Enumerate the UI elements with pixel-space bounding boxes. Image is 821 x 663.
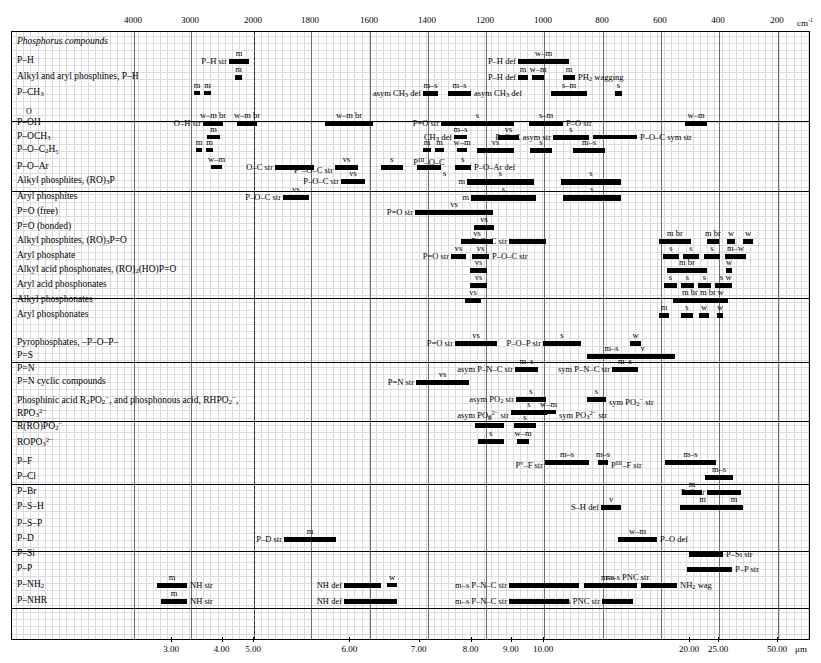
- band-intensity-label: m–s: [582, 138, 596, 147]
- band-intensity-label: m–s: [560, 450, 574, 459]
- band-marker: [471, 195, 536, 201]
- band-assignment-label: asym P–N–C str: [457, 365, 513, 374]
- row-label-6: P–O–C2H₅: [17, 144, 59, 156]
- band-intensity-label: m: [235, 65, 242, 74]
- band-assignment-label: asym CH3 def: [373, 89, 421, 99]
- band-assignment-label: NH str: [190, 581, 213, 590]
- top-tick-1800: 1800: [301, 16, 319, 25]
- band-intensity-label: s: [710, 244, 713, 253]
- band-marker: [725, 283, 732, 288]
- band-intensity-label: s: [589, 169, 592, 178]
- bottom-axis-wavelength: 3.004.005.006.007.008.009.0010.0020.0025…: [0, 645, 821, 659]
- gridline-horizontal: [12, 108, 809, 109]
- band-assignment-label: P=O str: [423, 252, 449, 261]
- band-marker: [717, 313, 723, 318]
- band-marker: [161, 599, 187, 604]
- band-intensity-label: m: [436, 138, 443, 147]
- top-axis-unit: cm-1: [797, 16, 813, 28]
- band-marker: [685, 121, 707, 126]
- band-assignment-label: m–s P–N–C str: [455, 581, 507, 590]
- band-assignment-label: sym P–N–C str: [558, 365, 610, 374]
- band-marker: [457, 148, 467, 152]
- gridline-horizontal: [12, 418, 809, 419]
- row-label-18: Pyrophosphates, –P–O–P–: [17, 337, 118, 347]
- band-intensity-label: m: [661, 303, 668, 312]
- band-assignment-label: P–O–C str: [303, 177, 339, 186]
- row-label-3: P–CH3: [17, 87, 44, 99]
- band-intensity-label: m: [194, 81, 201, 90]
- band-assignment-label: P–Si str: [726, 550, 753, 559]
- gridline-vertical: [719, 32, 720, 639]
- top-tick-400: 400: [711, 16, 725, 25]
- band-marker: [455, 165, 471, 170]
- band-intensity-label: s: [390, 155, 393, 164]
- band-intensity-label: vs: [450, 200, 458, 209]
- row-label-15: Aryl acid phosphonates: [17, 279, 107, 289]
- band-intensity-label: s: [569, 125, 572, 134]
- gridline-horizontal: [12, 619, 809, 620]
- band-intensity-label: w–m br: [336, 111, 362, 120]
- row-label-28: P–Br: [17, 486, 37, 496]
- top-tick-600: 600: [653, 16, 667, 25]
- bottom-tick-50.00: 50.00: [767, 645, 787, 654]
- band-intensity-label: m–s PNC str: [606, 573, 649, 582]
- gridline-horizontal: [12, 598, 809, 599]
- top-tick-1600: 1600: [360, 16, 378, 25]
- band-marker: [587, 397, 606, 402]
- band-marker: [551, 91, 587, 96]
- band-marker: [618, 537, 657, 542]
- row-label-0: Phosphorus compounds: [17, 36, 108, 46]
- band-intensity-label: v: [640, 344, 644, 353]
- gridline-horizontal: [12, 338, 809, 339]
- band-intensity-label: w: [717, 303, 723, 312]
- gridline-horizontal: [12, 353, 809, 354]
- band-marker: [517, 439, 529, 444]
- band-assignment-label: P=O str: [427, 339, 453, 348]
- row-label-12: Alkyl phosphites, (RO)3P=O: [17, 235, 127, 247]
- band-assignment-label: sym PO2− str: [609, 395, 654, 408]
- gridline-horizontal: [12, 360, 809, 361]
- band-intensity-label: w–m: [515, 429, 532, 438]
- band-intensity-label: m br: [700, 288, 716, 297]
- band-marker: [659, 239, 691, 244]
- gridline-horizontal: [12, 43, 809, 44]
- band-intensity-label: m–s: [596, 450, 610, 459]
- band-assignment-label: P–H def: [488, 73, 516, 82]
- band-marker: [284, 537, 336, 542]
- band-intensity-label: m–s: [683, 450, 697, 459]
- band-intensity-label: w–m: [535, 49, 552, 58]
- band-marker: [602, 599, 633, 604]
- band-intensity-label: m–s: [452, 81, 466, 90]
- band-assignment-label: P–O def: [660, 535, 688, 544]
- row-label-29: P–S–H: [17, 501, 44, 511]
- band-marker: [423, 148, 431, 152]
- gridline-horizontal: [12, 626, 809, 627]
- band-intensity-label: s–m: [562, 81, 576, 90]
- row-label-13: Aryl phosphate: [17, 250, 75, 260]
- band-intensity-label: w–m: [688, 111, 705, 120]
- band-intensity-label: s: [476, 111, 479, 120]
- top-axis-wavenumber: 4000300020001800160014001200100080060040…: [0, 16, 821, 30]
- band-intensity-label: w: [701, 303, 707, 312]
- band-assignment-label: NH2 wag: [680, 581, 712, 591]
- band-marker: [725, 505, 743, 510]
- band-intensity-label: m: [210, 125, 217, 134]
- gridline-horizontal: [12, 202, 809, 203]
- band-intensity-label: s: [703, 273, 706, 282]
- band-intensity-label: m: [699, 495, 706, 504]
- row-label-19: P=S: [17, 350, 33, 360]
- band-intensity-label: vs: [475, 273, 483, 282]
- gridline-horizontal: [12, 223, 809, 224]
- band-marker: [659, 313, 669, 318]
- row-label-32: P–Si: [17, 548, 35, 558]
- band-assignment-label: P–O–C str: [245, 193, 281, 202]
- band-marker: [598, 460, 608, 465]
- band-intensity-label: s: [461, 155, 464, 164]
- gridline-horizontal: [12, 310, 809, 311]
- band-intensity-label: s: [686, 273, 689, 282]
- band-intensity-label: s: [443, 169, 446, 178]
- band-marker: [467, 179, 534, 185]
- top-tick-2000: 2000: [244, 16, 262, 25]
- top-tick-1200: 1200: [476, 16, 494, 25]
- gridline-horizontal: [12, 36, 809, 37]
